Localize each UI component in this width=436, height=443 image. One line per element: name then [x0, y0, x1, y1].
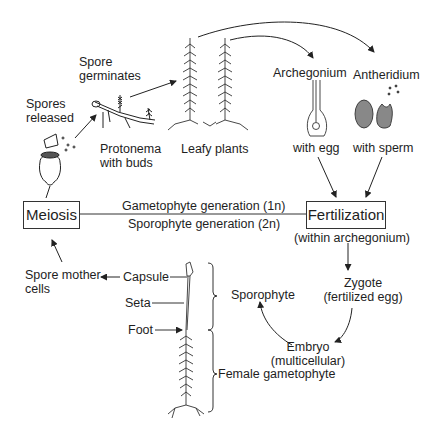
label-line: germinates [79, 69, 141, 83]
label-spores-released: Spores released [26, 97, 74, 125]
label-line: (fertilized egg) [323, 290, 403, 304]
meiosis-box: Meiosis [23, 201, 80, 229]
label-zygote: Zygote (fertilized egg) [323, 276, 403, 304]
label-foot: Foot [128, 323, 153, 337]
label-line: Embryo [268, 340, 348, 354]
label-line: cells [25, 282, 101, 296]
label-with-sperm: with sperm [353, 141, 413, 155]
label-sporophyte-generation: Sporophyte generation (2n) [128, 217, 280, 231]
label-line: Protonema [100, 142, 161, 156]
label-spore-mother-cells: Spore mother cells [25, 268, 101, 296]
label-archegonium: Archegonium [273, 66, 347, 80]
label-sporophyte: Sporophyte [231, 288, 295, 302]
protonema-icon [92, 95, 155, 128]
label-gametophyte-generation: Gametophyte generation (1n) [122, 199, 285, 213]
fertilization-box: Fertilization [306, 201, 386, 229]
label-female-gametophyte: Female gametophyte [218, 367, 335, 381]
label-line: (multicellular) [268, 354, 348, 368]
arrow-to-antheridium [198, 22, 374, 52]
label-line: Spore mother [25, 268, 101, 282]
archegonium-icon [307, 80, 326, 136]
label-line: with buds [100, 156, 161, 170]
label-line: Zygote [323, 276, 403, 290]
spore-capsule-icon [39, 134, 75, 198]
arrow-sperm-to-fertilization [366, 157, 382, 197]
arrow-to-archegonium [230, 36, 313, 58]
label-leafy-plants: Leafy plants [181, 142, 248, 156]
arrow-embryo-to-sporophyte [260, 302, 292, 345]
gametophyte-brace [208, 330, 217, 412]
sporophyte-brace [208, 263, 217, 330]
label-spore-germinates: Spore germinates [79, 55, 141, 83]
label-protonema: Protonema with buds [100, 142, 161, 170]
leafy-plants-icon [168, 38, 248, 130]
label-line: released [26, 111, 74, 125]
label-embryo: Embryo (multicellular) [268, 340, 348, 368]
label-line: Spores [26, 97, 74, 111]
antheridium-icon [355, 85, 399, 128]
label-capsule: Capsule [123, 270, 169, 284]
arrow-to-meiosis [52, 240, 62, 262]
label-with-egg: with egg [293, 141, 340, 155]
arrow-egg-to-fertilization [318, 157, 336, 197]
arrow-spore-germinates [130, 81, 176, 97]
arrow-spores-released [75, 115, 96, 138]
moss-sporophyte-icon [168, 262, 204, 418]
label-line: Spore [79, 55, 141, 69]
label-antheridium: Antheridium [353, 68, 420, 82]
label-seta: Seta [125, 296, 151, 310]
arrow-zygote-to-embryo [335, 308, 352, 342]
label-within-archegonium: (within archegonium) [294, 231, 410, 245]
